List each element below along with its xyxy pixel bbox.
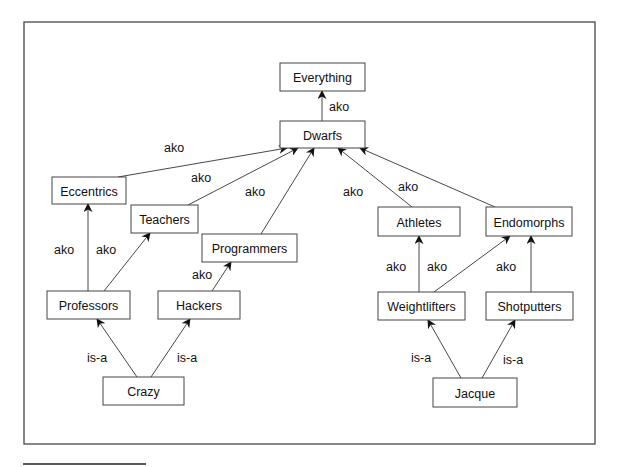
node-label: Eccentrics — [60, 185, 118, 199]
edge-jacque-to-shotputters: is-a — [482, 320, 523, 378]
arrow-line — [261, 148, 314, 234]
edge-label: ako — [245, 185, 265, 199]
edge-label: is-a — [411, 351, 431, 365]
edge-professors-to-eccentrics: ako — [54, 204, 88, 291]
node-label: Athletes — [396, 216, 441, 230]
node-label: Dwarfs — [303, 129, 342, 143]
edge-athletes-to-dwarfs: ako — [338, 148, 412, 207]
edge-hackers-to-programmers: ako — [192, 262, 231, 291]
node-label: Programmers — [212, 242, 288, 256]
arrow-line — [360, 148, 495, 207]
nodes-layer: EverythingDwarfsEccentricsTeachersProgra… — [47, 63, 573, 407]
arrow-line — [104, 233, 150, 291]
edge-label: is-a — [503, 353, 523, 367]
node-endomorphs: Endomorphs — [486, 207, 572, 236]
node-everything: Everything — [280, 63, 365, 91]
arrow-line — [428, 320, 461, 378]
semantic-network-diagram: akoakoakoakoakoakoakoakoakoakoakoakois-a… — [0, 0, 619, 467]
edge-label: ako — [191, 171, 211, 185]
edge-label: ako — [386, 260, 406, 274]
edge-label: ako — [192, 268, 212, 282]
edge-label: ako — [164, 141, 184, 155]
edge-label: is-a — [87, 351, 107, 365]
node-label: Crazy — [127, 385, 160, 399]
arrow-line — [482, 320, 515, 378]
node-weightlifters: Weightlifters — [378, 292, 465, 320]
edge-label: ako — [96, 243, 116, 257]
node-programmers: Programmers — [202, 234, 297, 262]
edge-dwarfs-to-everything: ako — [322, 91, 349, 121]
node-teachers: Teachers — [131, 205, 198, 233]
arrow-line — [151, 319, 190, 377]
edge-endomorphs-to-dwarfs: ako — [360, 148, 495, 207]
edge-teachers-to-dwarfs: ako — [188, 148, 298, 205]
node-label: Everything — [293, 71, 352, 85]
edge-label: ako — [398, 180, 418, 194]
node-dwarfs: Dwarfs — [280, 121, 365, 148]
edge-professors-to-teachers: ako — [96, 233, 150, 291]
node-jacque: Jacque — [433, 378, 517, 407]
edge-shotputters-to-endomorphs: ako — [496, 236, 531, 292]
node-label: Professors — [59, 299, 119, 313]
node-label: Hackers — [176, 299, 222, 313]
edge-label: ako — [496, 260, 516, 274]
node-eccentrics: Eccentrics — [52, 177, 126, 204]
edge-programmers-to-dwarfs: ako — [245, 148, 314, 234]
edge-label: ako — [54, 243, 74, 257]
node-label: Endomorphs — [494, 216, 565, 230]
node-crazy: Crazy — [103, 377, 184, 405]
node-athletes: Athletes — [378, 207, 460, 236]
node-professors: Professors — [47, 291, 130, 319]
edge-jacque-to-weightlifters: is-a — [411, 320, 461, 378]
node-hackers: Hackers — [158, 291, 240, 319]
edge-label: ako — [329, 100, 349, 114]
arrow-line — [97, 319, 137, 377]
edge-crazy-to-hackers: is-a — [151, 319, 197, 377]
node-label: Teachers — [139, 213, 190, 227]
node-label: Weightlifters — [387, 300, 456, 314]
edge-label: is-a — [177, 351, 197, 365]
node-shotputters: Shotputters — [486, 292, 573, 320]
arrow-line — [212, 262, 231, 291]
node-label: Jacque — [455, 387, 495, 401]
edge-label: ako — [343, 185, 363, 199]
edge-label: ako — [427, 260, 447, 274]
node-label: Shotputters — [498, 300, 562, 314]
edge-weightlifters-to-athletes: ako — [386, 236, 419, 292]
edge-crazy-to-professors: is-a — [87, 319, 137, 377]
